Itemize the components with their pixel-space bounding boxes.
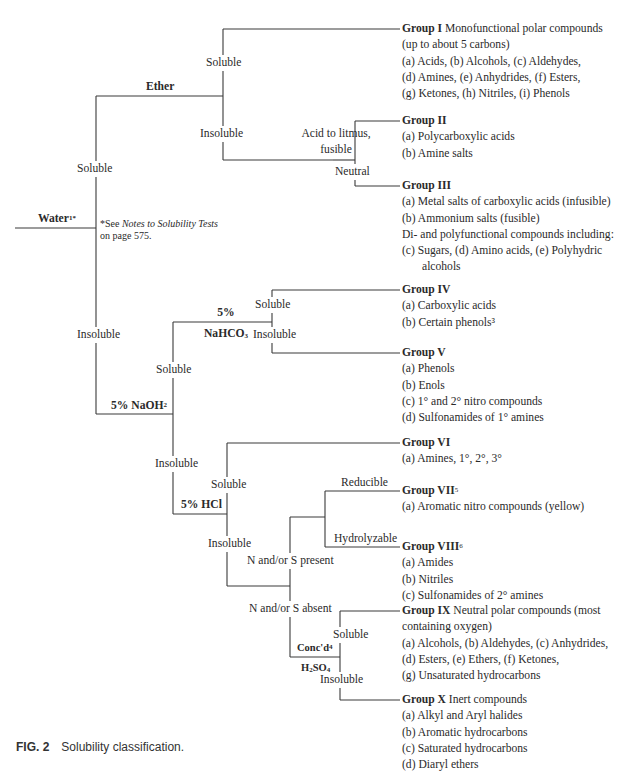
figure-number: FIG. 2 [16,740,49,754]
group-1: Group I Monofunctional polar compounds (… [402,21,603,102]
group-6: Group VI (a) Amines, 1°, 2°, 3° [402,435,502,468]
group-5: Group V (a) Phenols (b) Enols (c) 1° and… [402,345,544,426]
h2so4-soluble-label: Soluble [333,627,368,643]
group-4: Group IV (a) Carboxylic acids (b) Certai… [402,282,496,331]
water-soluble-label: Soluble [77,161,112,177]
group-3: Group III (a) Metal salts of carboxylic … [402,178,614,276]
ether-test-label: Ether [146,79,174,95]
hcl-insoluble-label: Insoluble [208,536,251,552]
naoh-insoluble-label: Insoluble [155,456,198,472]
naoh-soluble-label: Soluble [156,362,191,378]
hcl-reagent-label: 5% HCl [181,497,222,513]
water-root-label: Water1* [38,211,76,227]
concd-reagent-label: Conc'd4 [297,640,333,656]
group-2: Group II (a) Polycarboxylic acids (b) Am… [402,113,515,162]
acid-to-litmus-label: Acid to litmus, fusible [296,126,376,159]
hydrolyzable-label: Hydrolyzable [334,531,397,547]
hcl-soluble-label: Soluble [211,477,246,493]
group-8: Group VIII6 (a) Amides (b) Nitriles (c) … [402,539,543,604]
ether-insoluble-label: Insoluble [200,126,243,142]
naoh-reagent-label: 5% NaOH2 [111,398,167,414]
nahco3-reagent-label: NaHCO3 [204,326,248,342]
ether-soluble-label: Soluble [206,55,241,71]
ns-present-label: N and/or S present [247,553,334,569]
footnote: *See Notes to Solubility Tests on page 5… [100,218,218,242]
h2so4-insoluble-label: Insoluble [320,672,363,688]
group-7: Group VII5 (a) Aromatic nitro compounds … [402,483,584,516]
neutral-label: Neutral [335,164,370,180]
nahco3-soluble-label: Soluble [255,297,290,313]
reducible-label: Reducible [341,475,388,491]
group-9: Group IX Neutral polar compounds (most c… [402,603,608,684]
ns-absent-label: N and/or S absent [249,601,332,617]
group-10: Group X Inert compounds (a) Alkyl and Ar… [402,692,528,773]
figure-caption-text: Solubility classification. [61,740,184,754]
figure-caption: FIG. 2Solubility classification. [16,740,184,754]
nahco3-insoluble-label: Insoluble [253,327,296,343]
water-insoluble-label: Insoluble [77,327,120,343]
nahco3-percent-label: 5% [208,305,244,321]
